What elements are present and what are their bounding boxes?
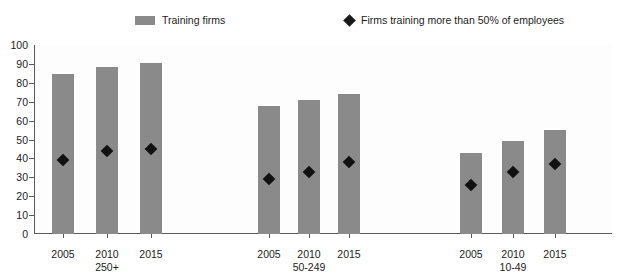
x-tick-mark-2	[107, 234, 108, 238]
chart-container: Training firms Firms training more than …	[0, 0, 620, 280]
x-label-10-49-2015: 2015	[543, 248, 566, 260]
x-label-250plus-2005: 2005	[51, 248, 74, 260]
x-tick-mark-4	[269, 234, 270, 238]
y-tick-label-40: 40	[16, 152, 28, 164]
x-label-50-249-2015: 2015	[337, 248, 360, 260]
y-tick-mark-60	[29, 121, 34, 122]
y-tick-label-30: 30	[16, 171, 28, 183]
x-label-250plus-2015: 2015	[139, 248, 162, 260]
y-tick-mark-80	[29, 83, 34, 84]
x-tick-mark-1	[63, 234, 64, 238]
legend-label-firms-training-over-50: Firms training more than 50% of employee…	[361, 14, 564, 26]
x-label-10-49-2010: 2010	[501, 248, 524, 260]
y-tick-label-70: 70	[16, 96, 28, 108]
y-tick-label-80: 80	[16, 77, 28, 89]
x-tick-mark-9	[555, 234, 556, 238]
y-tick-label-20: 20	[16, 190, 28, 202]
bar-10-49-2015	[544, 130, 566, 234]
y-tick-label-100: 100	[10, 39, 28, 51]
y-tick-mark-40	[29, 158, 34, 159]
y-tick-mark-70	[29, 102, 34, 103]
plot-area	[34, 45, 612, 234]
y-tick-label-60: 60	[16, 115, 28, 127]
bar-swatch-icon	[135, 16, 155, 25]
y-tick-label-10: 10	[16, 209, 28, 221]
x-tick-mark-6	[349, 234, 350, 238]
y-tick-label-50: 50	[16, 134, 28, 146]
y-tick-mark-10	[29, 215, 34, 216]
y-tick-label-90: 90	[16, 58, 28, 70]
legend-entry-firms-training-over-50: Firms training more than 50% of employee…	[345, 14, 564, 26]
legend-label-training-firms: Training firms	[162, 14, 225, 26]
chart-legend: Training firms Firms training more than …	[0, 14, 620, 36]
y-tick-mark-20	[29, 196, 34, 197]
diamond-marker-icon	[343, 14, 356, 27]
group-label-50-249: 50-249	[293, 261, 326, 273]
x-tick-mark-7	[471, 234, 472, 238]
group-label-10-49: 10-49	[500, 261, 527, 273]
y-tick-mark-90	[29, 64, 34, 65]
x-tick-mark-3	[151, 234, 152, 238]
x-label-50-249-2010: 2010	[297, 248, 320, 260]
x-label-250plus-2010: 2010	[95, 248, 118, 260]
y-axis: 100 90 80 70 60 50 40 30 20 10 0	[0, 0, 34, 280]
bar-10-49-2005	[460, 153, 482, 234]
legend-entry-training-firms: Training firms	[135, 14, 225, 26]
group-label-250plus: 250+	[95, 261, 119, 273]
y-tick-mark-50	[29, 140, 34, 141]
y-tick-mark-30	[29, 177, 34, 178]
bar-10-49-2010	[502, 141, 524, 234]
x-label-50-249-2005: 2005	[257, 248, 280, 260]
x-tick-mark-5	[309, 234, 310, 238]
y-tick-label-0: 0	[22, 228, 28, 240]
x-label-10-49-2005: 2005	[459, 248, 482, 260]
x-tick-mark-8	[513, 234, 514, 238]
bar-50-249-2005	[258, 106, 280, 235]
